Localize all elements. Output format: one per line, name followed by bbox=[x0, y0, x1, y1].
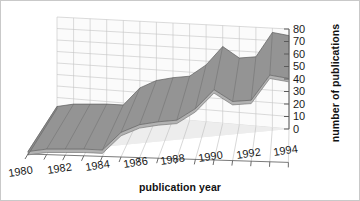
x-tick-label-1986: 1986 bbox=[122, 154, 148, 170]
chart-frame: 0 10 20 30 40 50 60 70 80 bbox=[0, 0, 360, 201]
x-tick-label-1980: 1980 bbox=[7, 163, 33, 179]
x-tick-label-1994: 1994 bbox=[272, 142, 298, 158]
y-axis-title: number of publications bbox=[329, 23, 341, 143]
y-tick-label-50: 50 bbox=[293, 60, 305, 72]
y-tick-label-0: 0 bbox=[293, 123, 299, 135]
x-axis-title: publication year bbox=[1, 181, 359, 193]
x-tick-label-1984: 1984 bbox=[84, 157, 110, 173]
y-tick-label-60: 60 bbox=[293, 48, 305, 60]
y-tick-label-80: 80 bbox=[293, 23, 305, 35]
y-tick-label-20: 20 bbox=[293, 98, 305, 110]
x-tick-label-1990: 1990 bbox=[197, 148, 223, 164]
x-tick-label-1982: 1982 bbox=[46, 160, 72, 176]
x-tick-label-1988: 1988 bbox=[159, 151, 185, 167]
chart-plot-area: 0 10 20 30 40 50 60 70 80 bbox=[1, 1, 360, 201]
y-tick-label-10: 10 bbox=[293, 110, 305, 122]
x-tick-label-1992: 1992 bbox=[235, 145, 261, 161]
y-tick-label-70: 70 bbox=[293, 35, 305, 47]
y-tick-label-40: 40 bbox=[293, 73, 305, 85]
y-tick-label-30: 30 bbox=[293, 85, 305, 97]
